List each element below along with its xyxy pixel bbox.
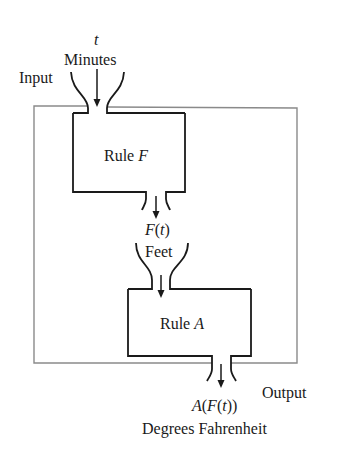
rule-a-symbol: A [194, 315, 204, 332]
ft-args: (t) [155, 221, 170, 238]
arrow-into-rule-a [158, 275, 165, 298]
aft-paren-close: )) [227, 397, 238, 414]
rule-a-word: Rule [160, 315, 194, 332]
input-variable-label: t [94, 32, 98, 48]
arrow-into-rule-f [94, 69, 101, 107]
input-label: Input [19, 70, 53, 86]
aft-outer-function: A [192, 397, 202, 414]
arrow-out-of-rule-a [218, 364, 225, 388]
intermediate-expression: F(t) [145, 222, 170, 238]
output-label: Output [262, 385, 306, 401]
ft-function: F [145, 221, 155, 238]
input-unit-label: Minutes [64, 52, 116, 68]
output-unit-label: Degrees Fahrenheit [142, 421, 267, 437]
output-expression: A(F(t)) [192, 398, 237, 414]
intermediate-unit-label: Feet [145, 244, 173, 260]
rule-f-symbol: F [138, 147, 148, 164]
aft-inner-function: F [207, 397, 217, 414]
rule-f-label: Rule F [104, 148, 148, 164]
rule-a-box [128, 289, 251, 381]
rule-f-word: Rule [104, 147, 138, 164]
rule-a-label: Rule A [160, 316, 204, 332]
arrow-out-of-rule-f [153, 196, 160, 219]
